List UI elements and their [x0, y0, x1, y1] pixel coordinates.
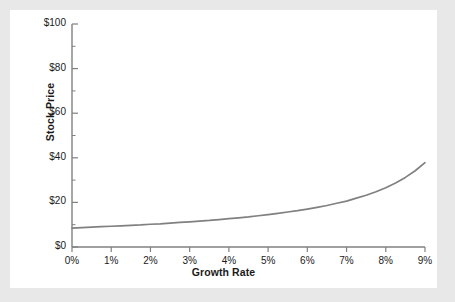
x-axis-title: Growth Rate: [10, 266, 437, 278]
y-axis-tick-label: $40: [20, 151, 66, 162]
chart-area: Stock Price Growth Rate $0$20$40$60$80$1…: [10, 10, 437, 288]
y-axis-tick-label: $60: [20, 106, 66, 117]
data-line-stock-price: [72, 163, 425, 228]
figure-card: Stock Price Growth Rate $0$20$40$60$80$1…: [10, 10, 437, 288]
x-axis-tick-label: 0%: [57, 255, 87, 266]
x-axis-tick-label: 4%: [214, 255, 244, 266]
x-axis-tick-label: 9%: [410, 255, 440, 266]
y-axis-tick-label: $20: [20, 195, 66, 206]
x-axis-tick-label: 5%: [253, 255, 283, 266]
x-axis-tick-label: 2%: [135, 255, 165, 266]
x-axis-tick-label: 8%: [371, 255, 401, 266]
x-axis-tick-label: 3%: [175, 255, 205, 266]
y-axis-tick-label: $0: [20, 240, 66, 251]
y-axis-tick-label: $100: [20, 17, 66, 28]
x-axis-tick-label: 1%: [96, 255, 126, 266]
x-axis-tick-label: 6%: [292, 255, 322, 266]
page-bleed-bottom: [0, 290, 455, 302]
plot-svg: [10, 10, 437, 288]
y-axis-tick-label: $80: [20, 62, 66, 73]
x-axis-tick-label: 7%: [332, 255, 362, 266]
page-bleed-top: [0, 0, 455, 8]
